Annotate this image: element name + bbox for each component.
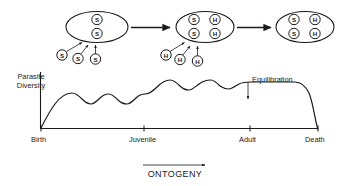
parasite-label: S — [93, 56, 97, 63]
occupant-s-3a: S — [289, 14, 299, 24]
parasite-label: H — [213, 16, 218, 23]
x-tick-label-juvenile: Juvenile — [129, 135, 156, 144]
occupant-h-2b: H — [210, 28, 220, 38]
occupant-s-2b: S — [189, 28, 199, 38]
figure-canvas: S S S S S — [0, 0, 349, 186]
recruitment-arrow-2 — [81, 45, 89, 55]
diversity-curve — [41, 80, 318, 129]
occupant-s-1a: S — [92, 14, 102, 24]
occupant-s-2a: S — [189, 14, 199, 24]
x-axis-caption: ONTOGENY — [148, 169, 203, 179]
recruitment-arrow-4 — [170, 43, 185, 52]
recruit-s-2: S — [73, 53, 83, 63]
x-tick-label-birth: Birth — [31, 135, 46, 144]
parasite-label: H — [313, 30, 318, 37]
parasite-label: S — [76, 55, 80, 62]
occupant-h-3b: H — [310, 28, 320, 38]
parasite-diversity-chart: Parasite Diversity Birth Juvenile Adult … — [17, 72, 325, 179]
occupant-s-1b: S — [92, 28, 102, 38]
parasite-label: H — [313, 16, 318, 23]
parasite-label: S — [292, 16, 296, 23]
parasite-label: S — [60, 52, 64, 59]
stage-juvenile-host: S S S S S — [57, 12, 128, 65]
parasite-label: S — [95, 30, 99, 37]
equilibration-label: Equilibration — [252, 75, 293, 84]
parasite-label: S — [292, 30, 296, 37]
recruitment-arrow-5 — [183, 46, 191, 56]
occupant-h-3a: H — [310, 14, 320, 24]
parasite-label: H — [178, 56, 183, 63]
host-ellipse-2 — [176, 12, 234, 43]
recruit-h-3: H — [192, 56, 202, 66]
stage-adult-host: S H S H H H — [161, 12, 234, 67]
recruit-h-2: H — [175, 54, 185, 64]
parasite-label: H — [164, 52, 169, 59]
figure-root: S S S S S — [0, 0, 349, 186]
y-axis-label-line2: Diversity — [17, 81, 46, 90]
parasite-label: H — [213, 30, 218, 37]
parasite-label: S — [192, 16, 196, 23]
occupant-s-3b: S — [289, 28, 299, 38]
occupant-h-2a: H — [210, 14, 220, 24]
stage-equilibrated-host: S H S H — [276, 12, 334, 43]
recruit-s-3: S — [90, 54, 100, 64]
parasite-label: H — [195, 58, 200, 65]
host-ellipse-3 — [276, 12, 334, 43]
x-tick-label-death: Death — [305, 135, 325, 144]
recruitment-arrow-1 — [67, 43, 83, 52]
parasite-label: S — [192, 30, 196, 37]
recruit-h-1: H — [161, 50, 171, 60]
x-tick-label-adult: Adult — [239, 135, 256, 144]
recruit-s-1: S — [57, 50, 67, 60]
parasite-label: S — [95, 16, 99, 23]
